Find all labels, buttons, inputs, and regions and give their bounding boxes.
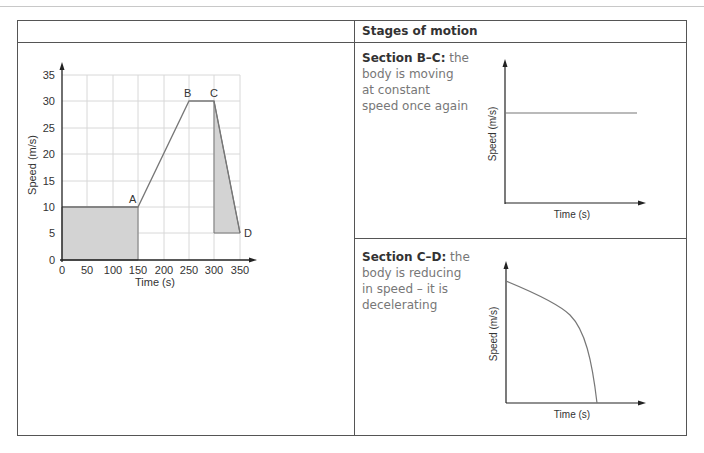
- mini-graph-bc: Time (s) Speed (m/s): [487, 59, 646, 220]
- svg-text:Speed (m/s): Speed (m/s): [488, 307, 499, 361]
- svg-text:Speed (m/s): Speed (m/s): [487, 107, 498, 161]
- arrow-up-icon: [504, 261, 509, 269]
- mini-graph-cd: Time (s) Speed (m/s): [488, 261, 646, 420]
- y-axis-arrow-icon: [60, 62, 65, 70]
- y-tick-labels: 35 30 25 20 15 10 5 0: [43, 69, 55, 266]
- shaded-area-0-150: [62, 207, 138, 260]
- arrow-right-icon: [638, 401, 646, 406]
- svg-text:Time (s): Time (s): [554, 409, 590, 420]
- svg-text:0: 0: [59, 264, 65, 276]
- x-tick-labels: 0 50 100 150 200 250 300 350: [59, 264, 249, 276]
- svg-text:35: 35: [43, 69, 55, 81]
- y-axis-label: Speed (m/s): [26, 135, 38, 195]
- speed-time-graph: 35 30 25 20 15 10 5 0 0 50 100 150 200 2…: [0, 0, 704, 453]
- svg-text:C: C: [210, 87, 218, 99]
- svg-text:25: 25: [43, 122, 55, 134]
- svg-text:200: 200: [155, 264, 173, 276]
- svg-text:30: 30: [43, 95, 55, 107]
- svg-text:15: 15: [43, 175, 55, 187]
- x-axis-arrow-icon: [249, 258, 257, 263]
- svg-text:300: 300: [205, 264, 223, 276]
- svg-text:A: A: [129, 193, 137, 205]
- svg-text:D: D: [244, 227, 252, 239]
- svg-text:350: 350: [231, 264, 249, 276]
- svg-text:Time (s): Time (s): [554, 209, 590, 220]
- svg-text:10: 10: [43, 201, 55, 213]
- svg-text:5: 5: [49, 227, 55, 239]
- svg-text:150: 150: [129, 264, 147, 276]
- svg-text:B: B: [184, 87, 191, 99]
- svg-text:20: 20: [43, 148, 55, 160]
- arrow-up-icon: [503, 59, 508, 67]
- svg-text:0: 0: [49, 254, 55, 266]
- svg-text:50: 50: [81, 264, 93, 276]
- x-axis-label: Time (s): [135, 276, 175, 288]
- arrow-right-icon: [638, 201, 646, 206]
- svg-text:100: 100: [104, 264, 122, 276]
- svg-text:250: 250: [180, 264, 198, 276]
